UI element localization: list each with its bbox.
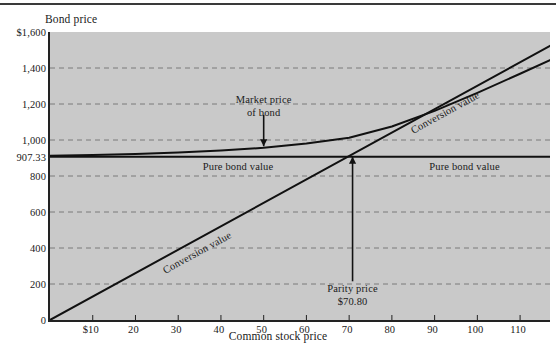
y-axis-tick-labels: 0200400600800907.331,0001,2001,400$1,600 — [0, 32, 46, 320]
y-tick-label: 1,200 — [0, 99, 46, 110]
chart-svg — [50, 32, 550, 320]
annotation-market-price-line2: of bond — [247, 107, 280, 118]
data-curves — [50, 46, 550, 320]
figure-top-rule — [0, 3, 556, 5]
y-tick-label: 907.33 — [0, 151, 46, 162]
annotation-parity-price-line1: Parity price — [327, 283, 378, 294]
annotation-parity-price: Parity price $70.80 — [327, 283, 378, 308]
y-tick-label: $1,600 — [0, 27, 46, 38]
y-axis-title: Bond price — [45, 13, 97, 25]
y-tick-label: 400 — [0, 243, 46, 254]
plot-area: Market price of bond Pure bond value Pur… — [48, 32, 550, 322]
y-tick-label: 0 — [0, 315, 46, 326]
y-tick-label: 800 — [0, 171, 46, 182]
annotation-pure-bond-value-left: Pure bond value — [203, 161, 274, 174]
x-axis-title: Common stock price — [0, 330, 556, 342]
annotation-parity-price-line2: $70.80 — [338, 296, 368, 307]
y-tick-label: 1,400 — [0, 63, 46, 74]
y-tick-label: 1,000 — [0, 135, 46, 146]
annotation-market-price: Market price of bond — [236, 94, 292, 119]
y-tick-label: 200 — [0, 279, 46, 290]
figure-container: Bond price 0200400600800907.331,0001,200… — [0, 0, 556, 346]
y-tick-label: 600 — [0, 207, 46, 218]
annotation-pure-bond-value-right: Pure bond value — [429, 161, 500, 174]
annotation-market-price-line1: Market price — [236, 94, 292, 105]
x-tick-marks — [93, 315, 520, 320]
